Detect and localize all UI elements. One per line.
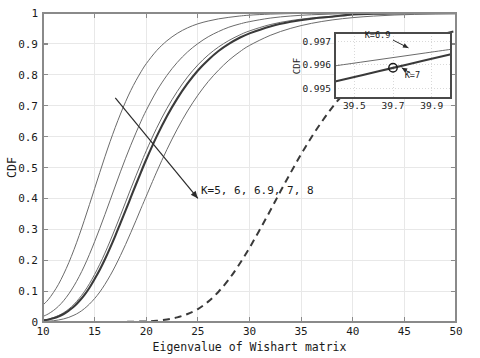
inset-x-tick-label: 39.5	[343, 100, 366, 111]
figure-root: 101520253035404550 00.10.20.30.40.50.60.…	[0, 0, 480, 358]
x-tick-label: 30	[243, 325, 256, 338]
inset-y-tick-label: 0.996	[302, 59, 331, 70]
x-axis-tick-labels: 101520253035404550	[36, 325, 462, 338]
inset-label-k7: K=7	[405, 70, 420, 80]
x-tick-label: 20	[140, 325, 153, 338]
x-axis-title: Eigenvalue of Wishart matrix	[153, 340, 347, 354]
y-tick-label: 0.2	[18, 254, 38, 267]
y-tick-label: 0	[31, 316, 38, 329]
inset-x-tick-label: 39.7	[382, 100, 405, 111]
y-tick-label: 0.1	[18, 285, 38, 298]
y-tick-label: 0.5	[18, 162, 38, 175]
x-tick-label: 35	[295, 325, 308, 338]
y-tick-label: 0.9	[18, 38, 38, 51]
inset-x-tick-label: 39.9	[420, 100, 443, 111]
inset-y-tick-labels: 0.9950.9960.997	[302, 36, 331, 94]
y-tick-label: 0.6	[18, 131, 38, 144]
y-tick-label: 0.3	[18, 223, 38, 236]
k-family-label: K=5, 6, 6.9, 7, 8	[201, 184, 314, 197]
x-tick-label: 45	[398, 325, 411, 338]
y-tick-label: 0.7	[18, 100, 38, 113]
inset-y-axis-title: CDF	[292, 58, 302, 74]
y-tick-label: 0.4	[18, 192, 38, 205]
inset-y-tick-label: 0.997	[302, 36, 331, 47]
inset-y-tick-label: 0.995	[302, 83, 331, 94]
inset-label-k69: K=6.9	[365, 30, 391, 40]
x-tick-label: 40	[346, 325, 359, 338]
x-tick-label: 15	[88, 325, 101, 338]
x-tick-label: 25	[191, 325, 204, 338]
cdf-chart: 101520253035404550 00.10.20.30.40.50.60.…	[0, 0, 480, 358]
y-tick-label: 1	[31, 7, 38, 20]
y-axis-title: CDF	[5, 157, 19, 178]
inset-x-tick-labels: 39.539.739.9	[343, 100, 443, 111]
x-tick-label: 50	[449, 325, 462, 338]
y-tick-label: 0.8	[18, 69, 38, 82]
x-tick-label: 10	[36, 325, 49, 338]
